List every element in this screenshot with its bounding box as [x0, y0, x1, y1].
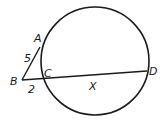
label-segment-ab: 5: [24, 52, 31, 65]
geometry-diagram: A 5 B 2 C X D: [0, 0, 165, 120]
label-segment-bc: 2: [28, 83, 35, 96]
label-point-c: C: [44, 67, 52, 80]
label-segment-cd: X: [88, 80, 97, 93]
label-point-b: B: [10, 75, 18, 88]
circle: [41, 7, 149, 115]
segment-bd: [22, 71, 147, 80]
label-point-d: D: [149, 65, 157, 78]
label-point-a: A: [33, 32, 42, 45]
